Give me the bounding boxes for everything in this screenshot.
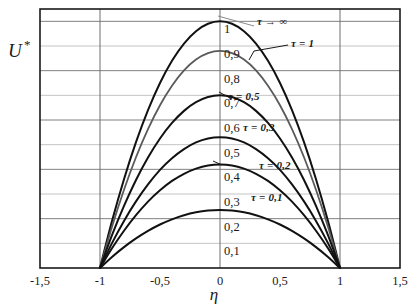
x-tick-label: -0,5 (150, 274, 170, 288)
y-tick-label: 1 (224, 22, 230, 36)
y-axis-title-text: U (8, 40, 23, 61)
x-axis-title-text: η (210, 285, 218, 304)
chart-svg: 0,10,20,30,40,50,60,70,80,91 -1,5-1-0,50… (0, 0, 420, 307)
annotation-label: τ = 0,1 (251, 191, 283, 203)
y-axis-title: U * (8, 37, 31, 61)
y-tick-label: 0,8 (224, 72, 240, 86)
y-axis-title-superscript: * (24, 37, 31, 52)
y-tick-label: 0,3 (224, 195, 240, 209)
annotation-label: τ → ∞ (257, 15, 287, 27)
y-tick-label: 0,6 (224, 121, 240, 135)
x-tick-label: 0,5 (272, 274, 288, 288)
x-tick-label: 1,5 (392, 274, 408, 288)
chart-figure: 0,10,20,30,40,50,60,70,80,91 -1,5-1-0,50… (0, 0, 420, 307)
x-tick-labels: -1,5-1-0,500,511,5 (30, 274, 408, 288)
y-tick-label: 0,5 (224, 146, 240, 160)
y-tick-label: 0,1 (224, 244, 240, 258)
x-tick-label: -1 (95, 274, 105, 288)
annotation-label: τ = 0,5 (228, 90, 260, 102)
annotation-label: τ = 0,2 (259, 159, 291, 171)
x-tick-label: 1 (337, 274, 343, 288)
annotation-label: τ = 1 (291, 37, 314, 49)
y-tick-label: 0,4 (224, 170, 240, 184)
y-tick-label: 0,9 (224, 47, 240, 61)
y-tick-label: 0,2 (224, 220, 240, 234)
x-tick-label: -1,5 (30, 274, 50, 288)
annotation-label: τ = 0,3 (243, 121, 275, 133)
